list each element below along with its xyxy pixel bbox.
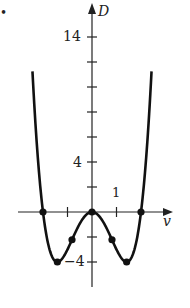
y-tick-label-4: 4 <box>73 155 82 169</box>
y-axis <box>88 3 96 287</box>
marked-point <box>68 236 75 243</box>
y-axis-label: D <box>98 4 109 18</box>
function-plot <box>0 0 190 308</box>
marked-point <box>123 258 130 265</box>
x-axis-label: v <box>163 214 171 228</box>
y-tick-label-14: 14 <box>63 29 81 43</box>
marked-point <box>54 258 61 265</box>
marked-point <box>137 208 144 215</box>
marked-point <box>108 236 115 243</box>
y-axis-arrow-icon <box>88 3 96 14</box>
x-tick-label-1: 1 <box>112 186 120 199</box>
marked-point <box>39 208 46 215</box>
y-tick-label-neg4: −4 <box>64 254 85 268</box>
marked-point <box>88 208 95 215</box>
page-bullet: • <box>0 7 7 19</box>
